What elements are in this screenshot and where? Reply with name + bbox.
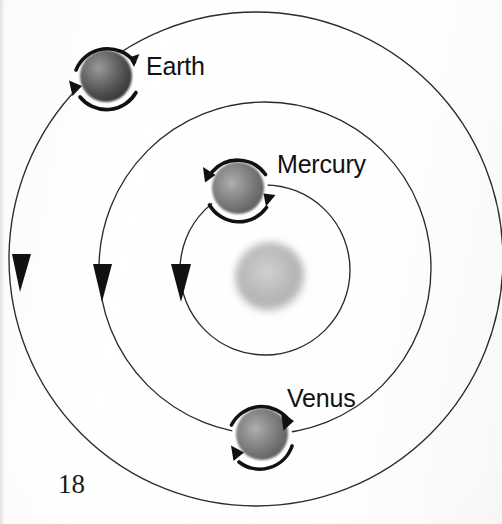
solar-system-diagram: [0, 0, 502, 524]
planet-earth: [69, 46, 140, 110]
orbit-direction-arrow-earth: [12, 254, 31, 292]
planet-label-earth: Earth: [146, 52, 205, 81]
orbit-direction-arrow-venus: [93, 264, 112, 302]
venus-sphere: [236, 408, 288, 460]
planet-label-venus: Venus: [287, 384, 356, 413]
textbook-page: Earth Mercury Venus 18: [0, 0, 502, 524]
planet-venus: [231, 404, 294, 469]
mercury-sphere: [212, 162, 264, 214]
page-number: 18: [58, 469, 85, 500]
sun-icon: [236, 243, 304, 311]
planet-label-mercury: Mercury: [277, 150, 366, 179]
orbit-direction-arrow-mercury: [171, 264, 191, 302]
earth-sphere: [80, 50, 132, 102]
planet-mercury: [203, 158, 276, 222]
orbit-direction-arrows: [12, 254, 191, 302]
